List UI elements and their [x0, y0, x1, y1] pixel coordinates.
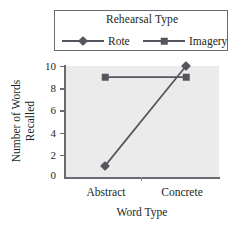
y-tick-2 [60, 155, 65, 156]
y-axis-line [64, 65, 66, 178]
y-axis-title: Number of Words Recalled [9, 56, 37, 186]
chart-figure: Rehearsal Type Rote Imagery [0, 0, 247, 229]
diamond-marker-icon [78, 36, 88, 46]
legend-title: Rehearsal Type [55, 13, 229, 26]
legend-entries: Rote Imagery [55, 32, 229, 50]
x-tick-label-concrete: Concrete [151, 186, 213, 199]
y-tick-label-6: 6 [36, 105, 56, 116]
y-tick-label-8: 8 [36, 83, 56, 94]
x-tick-label-abstract: Abstract [75, 186, 137, 199]
y-tick-4 [60, 133, 65, 134]
data-point-imagery-concrete [183, 74, 190, 81]
y-tick-8 [60, 88, 65, 89]
y-tick-label-10: 10 [36, 61, 56, 72]
square-marker-icon [161, 38, 168, 45]
y-tick-label-2: 2 [36, 150, 56, 161]
legend-item-imagery[interactable]: Imagery [143, 32, 227, 50]
data-point-imagery-abstract [102, 74, 109, 81]
x-tick-mid [141, 177, 142, 181]
legend-sample-imagery [143, 34, 185, 48]
y-tick-6 [60, 110, 65, 111]
y-axis-title-line2: Recalled [23, 56, 37, 186]
x-axis-title: Word Type [65, 206, 219, 219]
legend-item-rote[interactable]: Rote [62, 32, 130, 50]
y-tick-10 [60, 66, 65, 67]
y-tick-label-4: 4 [36, 128, 56, 139]
legend-sample-rote [62, 34, 104, 48]
chart-legend: Rehearsal Type Rote Imagery [54, 10, 228, 51]
legend-label-imagery: Imagery [185, 34, 227, 48]
plot-area-background [65, 66, 219, 177]
y-tick-label-0: 0 [36, 170, 56, 181]
y-axis-title-line1: Number of Words [9, 56, 23, 186]
legend-label-rote: Rote [104, 34, 130, 48]
